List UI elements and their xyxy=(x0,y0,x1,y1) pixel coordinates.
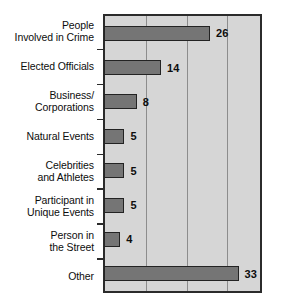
bar-slot: 8 xyxy=(105,85,260,119)
bar-value-label: 8 xyxy=(143,96,149,107)
category-label-line: Business/ xyxy=(49,89,94,101)
bar-value-label: 14 xyxy=(167,62,179,73)
bar-slot: 33 xyxy=(105,257,260,291)
bar-slot: 14 xyxy=(105,50,260,84)
bar[interactable]: 26 xyxy=(104,26,210,41)
category-label-business-corporations: Business/ Corporations xyxy=(0,84,99,119)
category-label-participant-in-unique-events: Participant in Unique Events xyxy=(0,188,99,223)
category-label-line: Involved in Crime xyxy=(15,31,94,43)
category-label-line: Person in xyxy=(51,229,94,241)
category-label-elected-officials: Elected Officials xyxy=(0,49,99,84)
bar[interactable]: 5 xyxy=(104,129,124,144)
bar[interactable]: 5 xyxy=(104,163,124,178)
category-label-line: Unique Events xyxy=(27,206,94,218)
category-label-line: Celebrities xyxy=(45,159,94,171)
bar-slot: 4 xyxy=(105,222,260,256)
bar-value-label: 4 xyxy=(126,234,132,245)
category-label-line: People xyxy=(62,19,94,31)
category-label-natural-events: Natural Events xyxy=(0,119,99,154)
category-label-line: Other xyxy=(68,270,94,282)
category-label-person-in-the-street: Person in the Street xyxy=(0,223,99,258)
bar-value-label: 5 xyxy=(130,165,136,176)
bar-chart: People Involved in Crime Elected Officia… xyxy=(0,0,282,307)
bar[interactable]: 8 xyxy=(104,94,137,109)
bar-slot: 5 xyxy=(105,154,260,188)
bar-value-label: 26 xyxy=(216,28,228,39)
category-label-line: Elected Officials xyxy=(21,60,94,72)
bar[interactable]: 33 xyxy=(104,266,239,281)
category-label-line: Natural Events xyxy=(27,130,94,142)
category-label-line: Participant in xyxy=(35,194,94,206)
category-label-line: Corporations xyxy=(35,101,94,113)
category-axis-labels: People Involved in Crime Elected Officia… xyxy=(0,14,99,293)
category-label-other: Other xyxy=(0,258,99,293)
bar-value-label: 5 xyxy=(130,131,136,142)
bar[interactable]: 5 xyxy=(104,198,124,213)
bar-slot: 5 xyxy=(105,188,260,222)
bar[interactable]: 14 xyxy=(104,60,161,75)
category-label-people-involved-in-crime: People Involved in Crime xyxy=(0,14,99,49)
bar-slot: 26 xyxy=(105,16,260,50)
plot-area: 26148555433 xyxy=(103,14,262,293)
category-label-celebrities-and-athletes: Celebrities and Athletes xyxy=(0,154,99,189)
bar-value-label: 33 xyxy=(245,268,257,279)
bar-slot: 5 xyxy=(105,119,260,153)
bars-layer: 26148555433 xyxy=(105,16,260,291)
bar[interactable]: 4 xyxy=(104,232,120,247)
category-label-line: the Street xyxy=(49,241,94,253)
category-label-line: and Athletes xyxy=(37,171,94,183)
bar-value-label: 5 xyxy=(130,200,136,211)
